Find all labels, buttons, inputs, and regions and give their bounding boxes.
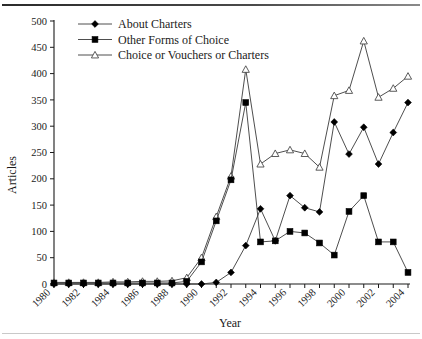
data-point-diamond — [198, 281, 205, 288]
data-point-triangle — [331, 92, 338, 99]
data-point-square — [405, 270, 411, 276]
x-axis-tick-label: 1994 — [236, 286, 259, 309]
x-axis-tick-label: 1992 — [207, 287, 230, 310]
y-axis-tick-label: 150 — [31, 200, 47, 211]
data-point-triangle — [404, 73, 411, 80]
x-axis-tick-label: 2004 — [384, 286, 407, 309]
x-axis-tick-label: 1986 — [118, 287, 141, 310]
data-point-square — [92, 37, 98, 43]
y-axis-title: Articles — [5, 156, 19, 194]
data-point-diamond — [228, 269, 235, 276]
series-polyline — [54, 103, 408, 284]
y-axis-tick-label: 100 — [31, 226, 47, 237]
legend-item[interactable]: Choice or Vouchers or Charters — [78, 48, 269, 62]
series-open-triangle — [50, 37, 411, 285]
y-axis-tick-label: 300 — [31, 121, 47, 132]
x-axis-tick-label: 2002 — [354, 287, 377, 310]
data-point-diamond — [405, 99, 412, 106]
data-point-diamond — [316, 209, 323, 216]
y-axis-tick-label: 400 — [31, 68, 47, 79]
data-point-diamond — [257, 205, 264, 212]
data-point-diamond — [346, 151, 353, 158]
x-axis-tick-label: 2000 — [325, 287, 348, 310]
series-filled-diamond — [51, 99, 412, 287]
series-filled-square — [51, 100, 411, 286]
series-polyline — [54, 41, 408, 282]
x-axis-title: Year — [219, 316, 241, 330]
data-point-diamond — [213, 279, 220, 286]
data-point-triangle — [360, 37, 367, 44]
y-axis-tick-label: 500 — [31, 16, 47, 27]
data-point-square — [302, 230, 308, 236]
y-axis-tick-label: 200 — [31, 173, 47, 184]
y-axis: 050100150200250300350400450500 — [31, 16, 54, 290]
data-point-triangle — [345, 87, 352, 94]
data-point-triangle — [257, 160, 264, 167]
data-point-square — [331, 252, 337, 258]
data-point-triangle — [242, 66, 249, 73]
line-chart-figure: 050100150200250300350400450500 198019821… — [0, 0, 422, 339]
data-point-diamond — [242, 242, 249, 249]
y-axis-tick-label: 450 — [31, 42, 47, 53]
data-point-square — [287, 229, 293, 235]
chart-canvas: 050100150200250300350400450500 198019821… — [0, 0, 422, 339]
data-point-diamond — [331, 119, 338, 126]
data-point-square — [258, 239, 264, 245]
data-point-square — [199, 259, 205, 265]
data-point-triangle — [375, 94, 382, 101]
data-point-square — [361, 193, 367, 199]
x-axis-tick-label: 1996 — [266, 287, 289, 310]
x-axis-tick-label: 1982 — [59, 287, 82, 310]
x-axis-tick-label: 1980 — [30, 287, 53, 310]
data-point-square — [346, 209, 352, 215]
legend-item-label: Choice or Vouchers or Charters — [118, 48, 269, 62]
data-point-square — [317, 240, 323, 246]
data-point-diamond — [92, 21, 99, 28]
chart-legend: About ChartersOther Forms of ChoiceChoic… — [78, 17, 269, 62]
data-point-square — [243, 100, 249, 106]
data-point-diamond — [390, 129, 397, 136]
legend-item[interactable]: Other Forms of Choice — [78, 33, 229, 47]
legend-item-label: Other Forms of Choice — [118, 33, 229, 47]
y-axis-tick-label: 350 — [31, 95, 47, 106]
data-point-square — [390, 239, 396, 245]
y-axis-tick-label: 250 — [31, 147, 47, 158]
data-point-square — [213, 218, 219, 224]
data-point-diamond — [375, 161, 382, 168]
data-point-square — [376, 239, 382, 245]
series-layer — [50, 37, 411, 287]
x-axis-tick-label: 1998 — [295, 287, 318, 310]
x-axis-tick-label: 1988 — [148, 287, 171, 310]
legend-item[interactable]: About Charters — [78, 17, 192, 31]
x-axis: 1980198219841986198819901992199419961998… — [30, 284, 410, 309]
series-polyline — [54, 103, 408, 283]
data-point-triangle — [286, 146, 293, 153]
x-axis-tick-label: 1984 — [89, 286, 112, 309]
legend-item-label: About Charters — [118, 17, 192, 31]
data-point-diamond — [360, 124, 367, 131]
y-axis-tick-label: 50 — [37, 252, 48, 263]
x-axis-tick-label: 1990 — [177, 287, 200, 310]
data-point-square — [228, 177, 234, 183]
